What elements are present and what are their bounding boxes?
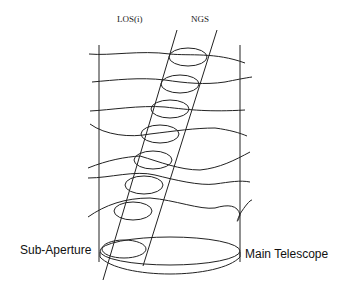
main-telescope-label: Main Telescope — [245, 247, 328, 261]
sub-aperture-ellipse — [102, 240, 146, 258]
telescope-diagram: LOS(i) NGS Sub-Aperture Main Telescope — [0, 0, 351, 286]
ngs-label: NGS — [191, 14, 209, 24]
main-aperture-ellipse — [100, 237, 240, 265]
turbulence-layers — [88, 53, 252, 222]
sub-aperture-label: Sub-Aperture — [20, 243, 92, 257]
main-aperture-rim — [100, 252, 240, 274]
los-label: LOS(i) — [117, 14, 143, 24]
